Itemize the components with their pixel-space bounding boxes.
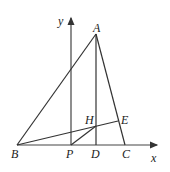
point-label-a: A bbox=[92, 21, 101, 35]
segment-ac bbox=[96, 34, 125, 145]
point-label-b: B bbox=[11, 147, 19, 161]
x-axis-label: x bbox=[150, 151, 157, 165]
point-label-p: P bbox=[65, 147, 74, 161]
point-label-c: C bbox=[122, 147, 131, 161]
segment-ab bbox=[17, 34, 96, 145]
geometry-diagram: y x A B C D E H P bbox=[0, 0, 170, 172]
point-label-e: E bbox=[120, 113, 129, 127]
point-label-d: D bbox=[90, 147, 100, 161]
point-label-h: H bbox=[84, 113, 95, 127]
y-axis-label: y bbox=[57, 14, 64, 28]
